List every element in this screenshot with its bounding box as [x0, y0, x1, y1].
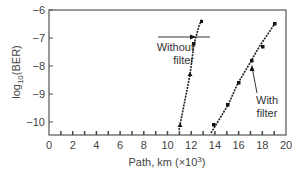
svg-text:6: 6	[117, 139, 123, 151]
svg-text:−7: −7	[32, 32, 45, 44]
svg-text:filter: filter	[173, 54, 194, 66]
marker	[261, 45, 265, 49]
plot-frame	[49, 10, 286, 135]
svg-text:12: 12	[185, 139, 197, 151]
marker	[237, 81, 241, 85]
marker	[200, 20, 203, 23]
chart: −6 −7 −8 −9 −10 0 2 4 6 8 10 12 14 16	[0, 0, 296, 174]
marker	[226, 103, 230, 107]
svg-text:−10: −10	[26, 116, 45, 128]
svg-text:16: 16	[232, 139, 244, 151]
svg-text:−6: −6	[32, 4, 45, 16]
svg-text:20: 20	[280, 139, 292, 151]
x-ticks	[61, 131, 274, 135]
svg-text:18: 18	[256, 139, 268, 151]
y-axis-title: log10(BER)	[10, 45, 25, 99]
svg-text:With: With	[256, 94, 278, 106]
marker	[188, 72, 193, 76]
x-axis-title: Path, km (×103)	[129, 155, 206, 168]
svg-text:−9: −9	[32, 88, 45, 100]
marker	[250, 59, 254, 63]
svg-text:8: 8	[141, 139, 147, 151]
marker	[178, 123, 183, 127]
y-tick-labels: −6 −7 −8 −9 −10	[26, 4, 45, 128]
marker	[273, 22, 277, 26]
x-tick-labels: 0 2 4 6 8 10 12 14 16 18 20	[46, 139, 292, 151]
svg-text:0: 0	[46, 139, 52, 151]
svg-text:2: 2	[70, 139, 76, 151]
annotation-with-filter: With filter	[250, 65, 279, 119]
svg-text:10: 10	[161, 139, 173, 151]
svg-text:filter: filter	[257, 107, 278, 119]
svg-text:Without: Without	[157, 41, 194, 53]
svg-text:−8: −8	[32, 60, 45, 72]
marker	[212, 123, 216, 127]
svg-text:14: 14	[209, 139, 221, 151]
svg-text:4: 4	[93, 139, 99, 151]
annotation-without-filter: Without filter	[157, 35, 210, 67]
